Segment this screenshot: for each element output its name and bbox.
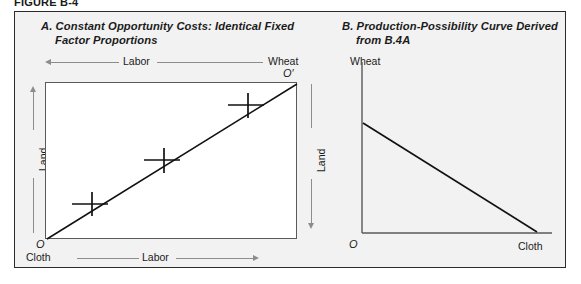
panel-a-cloth-label: Cloth bbox=[26, 251, 51, 263]
bottom-labor-arrow-right-icon bbox=[253, 255, 259, 261]
left-land-axis-line-upper bbox=[33, 92, 34, 130]
panel-a-wheat-label: Wheat bbox=[268, 55, 298, 67]
left-land-axis-line-lower bbox=[33, 178, 34, 233]
top-labor-axis-line-right bbox=[157, 62, 263, 63]
bottom-labor-axis-line-left bbox=[77, 258, 139, 259]
panel-a-plot-box bbox=[45, 82, 297, 239]
bottom-labor-axis-label: Labor bbox=[142, 251, 169, 263]
panel-a-title-line1: A. Constant Opportunity Costs: Identical… bbox=[41, 20, 294, 32]
top-labor-axis-line-left bbox=[51, 62, 119, 63]
panel-a-title: A. Constant Opportunity Costs: Identical… bbox=[41, 19, 303, 47]
isoquant-tangency-marker-2 bbox=[144, 148, 180, 173]
panel-b-origin-label: O bbox=[349, 238, 358, 250]
right-land-axis-line-lower bbox=[311, 179, 312, 223]
panel-b: B. Production-Possibility Curve Derived … bbox=[320, 12, 567, 267]
panel-b-plot-area bbox=[348, 56, 553, 239]
contract-curve-line bbox=[47, 84, 297, 239]
panel-a-plot-svg bbox=[46, 83, 298, 240]
bottom-labor-axis-line-right bbox=[176, 258, 253, 259]
figure-frame: A. Constant Opportunity Costs: Identical… bbox=[14, 11, 566, 268]
panel-a-origin-label: O bbox=[36, 238, 45, 250]
figure-number-label: FIGURE B-4 bbox=[14, 0, 78, 8]
right-land-arrow-down-icon bbox=[308, 223, 314, 229]
panel-a-title-line2: Factor Proportions bbox=[41, 33, 303, 47]
top-labor-arrow-left-icon bbox=[45, 59, 51, 65]
isoquant-tangency-marker-3 bbox=[228, 93, 264, 118]
panel-a-origin-prime-label: O′ bbox=[283, 67, 294, 79]
panel-b-title-line2: from B.4A bbox=[342, 33, 562, 47]
top-labor-axis-label: Labor bbox=[123, 55, 150, 67]
right-land-axis-line-upper bbox=[311, 84, 312, 128]
panel-a: A. Constant Opportunity Costs: Identical… bbox=[15, 12, 320, 267]
panel-b-cloth-label: Cloth bbox=[518, 240, 543, 252]
panel-b-plot-svg bbox=[348, 56, 553, 239]
panel-b-title: B. Production-Possibility Curve Derived … bbox=[342, 19, 562, 47]
panel-b-title-line1: B. Production-Possibility Curve Derived bbox=[342, 20, 558, 32]
production-possibility-frontier-line bbox=[363, 123, 537, 232]
